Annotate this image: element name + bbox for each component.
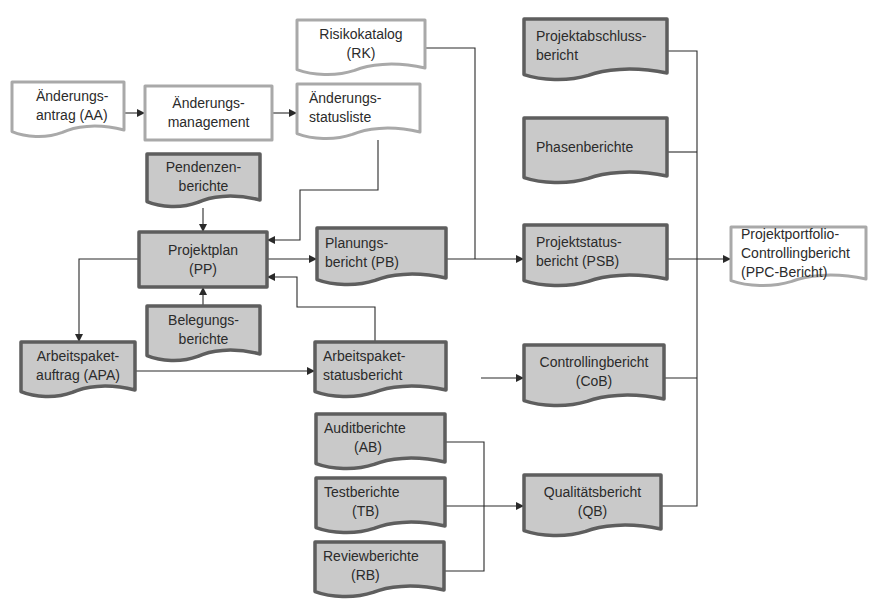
node-label: (PP) <box>189 261 217 277</box>
node-pen: Pendenzen-berichte <box>147 154 260 207</box>
node-label: antrag (AA) <box>36 107 108 123</box>
node-label: auftrag (APA) <box>36 367 120 383</box>
node-label: berichte <box>179 331 229 347</box>
node-label: Pendenzen- <box>166 159 242 175</box>
node-pp: Projektplan(PP) <box>139 232 267 287</box>
node-aa: Änderungs-antrag (AA) <box>12 82 124 137</box>
node-label: statusbericht <box>323 367 402 383</box>
node-bel: Belegungs-berichte <box>147 306 260 361</box>
node-label: (TB) <box>352 503 379 519</box>
node-label: Auditberichte <box>324 420 406 436</box>
node-rb: Reviewberichte(RB) <box>315 542 444 597</box>
report-nodes: Änderungs-antrag (AA)Änderungs-managemen… <box>12 19 866 597</box>
node-label: Reviewberichte <box>323 548 419 564</box>
node-label: Testberichte <box>324 484 400 500</box>
node-qb: Qualitätsbericht(QB) <box>524 475 661 536</box>
node-aps: Arbeitspaket-statusbericht <box>315 342 446 397</box>
node-am: Änderungs-management <box>145 86 272 140</box>
node-pb: Planungs-bericht (PB) <box>317 228 446 285</box>
node-label: Änderungs- <box>36 88 109 104</box>
node-ab: Auditberichte(AB) <box>316 414 445 469</box>
node-label: Belegungs- <box>168 312 239 328</box>
node-label: Projektstatus- <box>536 234 622 250</box>
node-pab: Projektabschluss-bericht <box>524 19 667 80</box>
node-label: (CoB) <box>576 373 613 389</box>
node-phb: Phasenberichte <box>524 118 667 183</box>
node-asl: Änderungs-statusliste <box>297 84 420 139</box>
node-label: Projektplan <box>168 242 238 258</box>
node-label: Projektportfolio- <box>741 226 839 242</box>
node-label: bericht (PB) <box>325 254 399 270</box>
node-label: Qualitätsbericht <box>544 484 641 500</box>
edge-asl-pp <box>268 140 378 240</box>
edge-pp-apa <box>79 259 139 341</box>
node-label: Controllingbericht <box>540 354 649 370</box>
node-label: Arbeitspaket- <box>37 348 120 364</box>
node-label: berichte <box>179 178 229 194</box>
node-label: Planungs- <box>325 235 388 251</box>
process-box <box>139 232 267 287</box>
node-label: Änderungs- <box>172 95 245 111</box>
node-label: statusliste <box>309 109 371 125</box>
node-cob: Controllingbericht(CoB) <box>524 345 664 406</box>
node-psb: Projektstatus-bericht (PSB) <box>524 225 667 286</box>
node-label: management <box>168 114 250 130</box>
node-label: Arbeitspaket- <box>323 348 406 364</box>
node-label: bericht <box>536 47 578 63</box>
node-label: bericht (PSB) <box>536 253 619 269</box>
node-label: Änderungs- <box>309 90 382 106</box>
node-label: Risikokatalog <box>319 26 402 42</box>
report-flow-diagram: Änderungs-antrag (AA)Änderungs-managemen… <box>0 0 877 614</box>
node-label: (PPC-Bericht) <box>741 264 827 280</box>
edge-aps-pp <box>268 277 375 342</box>
node-tb: Testberichte(TB) <box>316 478 445 533</box>
node-label: (AB) <box>354 439 382 455</box>
node-rk: Risikokatalog(RK) <box>297 20 425 75</box>
node-label: Projektabschluss- <box>536 28 647 44</box>
node-label: Controllingbericht <box>741 245 850 261</box>
node-label: (RB) <box>351 567 380 583</box>
node-apa: Arbeitspaket-auftrag (APA) <box>21 342 135 397</box>
node-ppc: Projektportfolio-Controllingbericht(PPC-… <box>731 226 866 286</box>
node-label: Phasenberichte <box>536 139 634 155</box>
node-label: (QB) <box>578 503 608 519</box>
node-label: (RK) <box>347 45 376 61</box>
